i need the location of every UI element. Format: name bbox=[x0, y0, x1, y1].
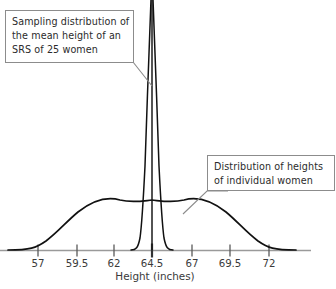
x-axis-title: Height (inches) bbox=[0, 270, 310, 282]
callout-leader-sampling bbox=[110, 62, 152, 86]
tick-label-72: 72 bbox=[263, 258, 276, 269]
callout-individual-line-1: Distribution of heights bbox=[214, 160, 329, 174]
callout-individual-line-2: of individual women bbox=[214, 174, 329, 188]
tick-label-62: 62 bbox=[108, 258, 121, 269]
callout-individual-distribution: Distribution of heights of individual wo… bbox=[207, 155, 335, 191]
tick-label-59-5: 59.5 bbox=[66, 258, 89, 269]
callout-sampling-line-2: the mean height of an bbox=[12, 29, 128, 43]
statistics-chart: Sampling distribution of the mean height… bbox=[0, 0, 336, 289]
callout-sampling-distribution: Sampling distribution of the mean height… bbox=[5, 10, 134, 63]
tick-label-64-5: 64.5 bbox=[141, 258, 164, 269]
callout-leader-individual bbox=[183, 191, 228, 214]
callout-sampling-line-1: Sampling distribution of bbox=[12, 15, 128, 29]
tick-label-69-5: 69.5 bbox=[219, 258, 242, 269]
callout-sampling-line-3: SRS of 25 women bbox=[12, 43, 128, 57]
tick-label-67: 67 bbox=[186, 258, 199, 269]
tick-label-57: 57 bbox=[32, 258, 45, 269]
